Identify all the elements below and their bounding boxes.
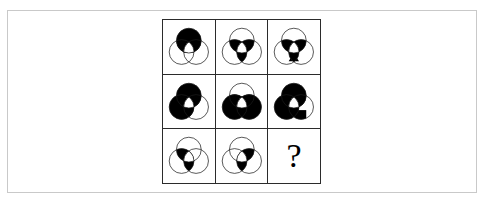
- puzzle-cell-r1c2[interactable]: [216, 20, 269, 75]
- page-frame: ?: [7, 10, 477, 193]
- puzzle-cell-r1c1[interactable]: [163, 20, 216, 75]
- puzzle-cell-r2c2[interactable]: [216, 75, 269, 130]
- venn-figure-r2c2: [216, 75, 268, 129]
- puzzle-cell-r3c2[interactable]: [216, 129, 269, 184]
- venn-figure-r3c1: [163, 129, 215, 183]
- venn-figure-r2c3: [268, 75, 320, 129]
- venn-figure-r2c1: [163, 75, 215, 129]
- venn-figure-r1c1: [163, 20, 215, 74]
- puzzle-cell-r2c3[interactable]: [268, 75, 321, 130]
- venn-figure-r3c2: [216, 129, 268, 183]
- venn-figure-r1c3: [268, 20, 320, 74]
- question-mark-wrap: ?: [268, 129, 320, 183]
- puzzle-cell-r2c1[interactable]: [163, 75, 216, 130]
- puzzle-grid: ?: [162, 19, 321, 184]
- venn-figure-r1c2: [216, 20, 268, 74]
- puzzle-cell-r3c3-answer[interactable]: ?: [268, 129, 321, 184]
- puzzle-cell-r1c3[interactable]: [268, 20, 321, 75]
- puzzle-cell-r3c1[interactable]: [163, 129, 216, 184]
- question-mark: ?: [287, 139, 302, 173]
